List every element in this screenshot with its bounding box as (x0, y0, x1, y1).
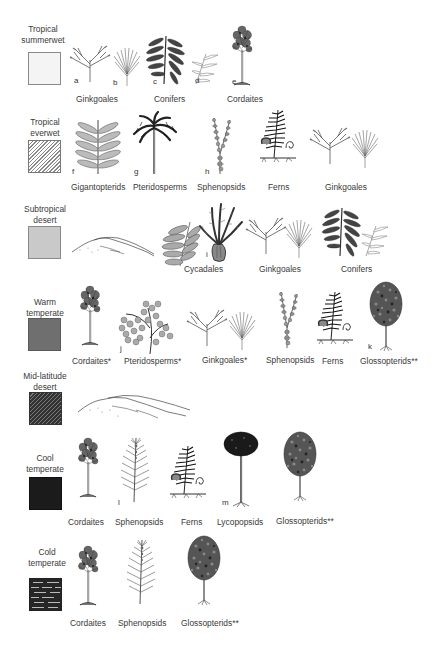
label-line: Tropical (14, 117, 76, 128)
figure-letter-e: e (232, 77, 236, 86)
taxon-label: Sphenopsids (115, 517, 163, 527)
taxon-label: Ferns (322, 356, 343, 366)
label-line: everwet (14, 128, 76, 139)
conifer-shoot-illustration (324, 206, 362, 258)
label-line: Tropical (12, 24, 74, 35)
swatch-tropical-everwet (28, 140, 61, 173)
taxon-label: Glossopterids** (276, 516, 334, 526)
taxon-label: Conifers (154, 94, 185, 104)
swatch-mid-latitude-desert (29, 392, 62, 425)
taxon-label: Ginkgoales* (202, 355, 247, 365)
ginkgoales-tuft-illustration (228, 310, 256, 350)
figure-letter-d: d (195, 76, 199, 85)
swatch-warm-temperate (28, 318, 61, 351)
figure-letter-m: m (222, 498, 229, 507)
fern-illustration (317, 290, 357, 350)
swatch-cold-temperate (29, 578, 62, 611)
figure-letter-a: a (74, 76, 78, 85)
taxon-label: Sphenopsids (118, 618, 166, 628)
label-line: summerwet (12, 35, 74, 46)
biome-label-subtropical-desert: Subtropical desert (14, 204, 76, 225)
figure-letter-k: k (368, 342, 372, 351)
figure-letter-i: i (206, 250, 208, 259)
glossopterid-tree-illustration (186, 536, 222, 606)
glossopterid-tree-illustration (282, 432, 318, 502)
cycad-leaf-illustration (164, 220, 204, 268)
figure-letter-c: c (153, 77, 157, 86)
label-line: Subtropical (14, 204, 76, 215)
taxon-label: Pteridosperms* (124, 356, 181, 366)
taxon-label: Ferns (268, 182, 289, 192)
ginkgoales-tuft-illustration (351, 128, 379, 168)
figure-letter-h: h (205, 167, 209, 176)
label-line: desert (14, 215, 76, 226)
label-line: Cold (16, 547, 78, 558)
fern-illustration (260, 108, 300, 168)
figure-letter-g: g (134, 167, 138, 176)
sphenopsid-illustration (275, 288, 301, 350)
gigantopterid-leaf-illustration (76, 118, 120, 176)
label-line: desert (14, 382, 76, 393)
biome-label-tropical-summerwet: Tropical summerwet (12, 24, 74, 45)
figure-letter-f: f (72, 167, 74, 176)
pteridosperm-frond-illustration (116, 298, 176, 356)
swatch-cool-temperate (29, 477, 62, 510)
taxon-label: Ginkgoales (259, 264, 301, 274)
biome-label-cool-temperate: Cool temperate (14, 453, 76, 474)
sphenopsid-whorled-illustration (118, 436, 154, 504)
figure-letter-b: b (113, 78, 117, 87)
taxon-label: Ginkgoales (76, 94, 118, 104)
ginkgoales-branch-illustration (187, 306, 227, 348)
label-line: temperate (14, 464, 76, 475)
label-line: Mid-latitude (14, 371, 76, 382)
ginkgoales-tuft-illustration (285, 218, 313, 258)
swatch-subtropical-desert (28, 226, 61, 259)
biome-label-warm-temperate: Warm temperate (14, 297, 76, 318)
pteridosperm-tree-illustration (132, 112, 178, 176)
taxon-label: Lycopopsids (217, 517, 263, 527)
taxon-label: Glossopterids** (360, 356, 418, 366)
fern-illustration (170, 444, 210, 504)
figure-letter-j: j (120, 344, 122, 353)
sphenopsid-whorled-illustration (124, 538, 160, 606)
conifer-light-shoot-illustration (362, 222, 390, 258)
ginkgoales-branch-illustration (246, 214, 286, 256)
sphenopsid-illustration (208, 114, 234, 176)
taxon-label: Cordaites (70, 618, 106, 628)
cordaites-tree-illustration (76, 436, 100, 498)
label-line: temperate (14, 308, 76, 319)
taxon-label: Glossopterids** (181, 618, 239, 628)
ginkgoales-branch-illustration (310, 124, 350, 166)
biome-label-cold-temperate: Cold temperate (16, 547, 78, 568)
swatch-tropical-summerwet (28, 52, 61, 85)
taxon-label: Ginkgoales (325, 182, 367, 192)
glossopterid-tree-illustration (368, 282, 404, 352)
biome-label-tropical-everwet: Tropical everwet (14, 117, 76, 138)
label-line: Cool (14, 453, 76, 464)
cordaites-tree-illustration (78, 284, 102, 346)
taxon-label: Ferns (181, 517, 202, 527)
taxon-label: Cordaites (68, 517, 104, 527)
cordaites-tree-illustration (76, 544, 100, 606)
label-line: Warm (14, 297, 76, 308)
sand-dunes-illustration (70, 236, 156, 260)
taxon-label: Cycadales (184, 264, 223, 274)
label-line: temperate (16, 558, 78, 569)
sand-dunes-illustration (76, 394, 194, 420)
figure-letter-l: l (118, 498, 120, 507)
taxon-label: Cordaites (227, 94, 263, 104)
taxon-label: Cordaites* (72, 356, 111, 366)
taxon-label: Sphenopsids (197, 182, 245, 192)
taxon-label: Pteridosperms (133, 182, 187, 192)
lycopsid-tree-illustration (224, 432, 258, 508)
biome-label-mid-latitude-desert: Mid-latitude desert (14, 371, 76, 392)
taxon-label: Sphenopsids (266, 355, 314, 365)
taxon-label: Conifers (341, 264, 372, 274)
taxon-label: Gigantopterids (71, 182, 125, 192)
